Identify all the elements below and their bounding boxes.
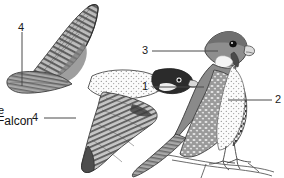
perched-falcon-tail <box>132 134 186 177</box>
callout-3-head: 3 <box>142 45 148 56</box>
perch-branch <box>168 155 274 178</box>
flying-falcon-lower-wing <box>81 92 157 173</box>
falcon-anatomy-figure: 4 4 3 1 2 e Falcon <box>0 0 284 178</box>
callout-4-upper-wing: 4 <box>18 22 24 33</box>
callout-2-primaries: 2 <box>275 94 281 105</box>
perched-falcon-drawing <box>132 32 274 178</box>
flying-falcon-head <box>152 69 198 94</box>
perched-falcon-head <box>205 32 255 68</box>
callout-1-back: 1 <box>142 81 148 92</box>
species-caption-label: Falcon <box>0 115 33 127</box>
